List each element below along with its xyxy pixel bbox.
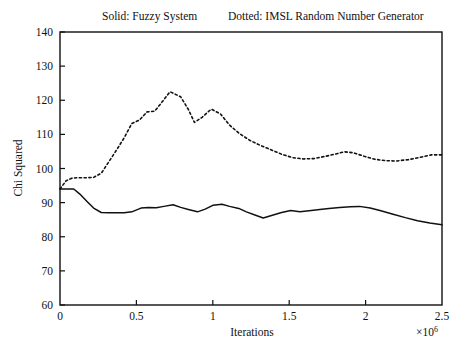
x-tick-label: 1.5 — [282, 310, 297, 322]
chart-title-solid-legend: Solid: Fuzzy System — [102, 10, 197, 23]
y-tick-label: 120 — [36, 94, 54, 106]
x-axis-multiplier-exponent: 6 — [434, 325, 438, 334]
chart-svg: Solid: Fuzzy System Dotted: IMSL Random … — [0, 0, 470, 355]
chart-title-dotted-legend: Dotted: IMSL Random Number Generator — [228, 10, 424, 22]
y-tick-label: 100 — [36, 163, 54, 175]
y-axis-tick-marks — [60, 32, 65, 305]
x-axis-tick-marks — [136, 300, 365, 305]
plot-frame — [60, 32, 442, 305]
x-tick-label: 1 — [210, 310, 216, 322]
y-tick-label: 130 — [36, 60, 54, 72]
y-axis-label: Chi Squared — [12, 139, 25, 196]
y-tick-label: 90 — [42, 197, 54, 209]
series-line-fuzzy-system — [60, 189, 442, 225]
y-axis-tick-labels: 60708090100110120130140 — [36, 26, 54, 311]
y-tick-label: 140 — [36, 26, 54, 38]
x-tick-label: 0 — [57, 310, 63, 322]
y-tick-label: 70 — [42, 265, 54, 277]
series-line-imsl-random-number-generator — [60, 92, 442, 189]
x-axis-multiplier: ×106 — [416, 325, 438, 338]
x-tick-label: 0.5 — [129, 310, 144, 322]
x-tick-label: 2 — [363, 310, 369, 322]
chart-figure: Solid: Fuzzy System Dotted: IMSL Random … — [0, 0, 470, 355]
y-tick-label: 80 — [42, 231, 54, 243]
y-tick-label: 110 — [36, 128, 53, 140]
x-axis-multiplier-base: ×10 — [416, 326, 434, 338]
x-tick-label: 2.5 — [435, 310, 450, 322]
x-axis-label: Iterations — [230, 326, 274, 338]
y-tick-label: 60 — [42, 299, 54, 311]
x-axis-tick-labels: 00.511.522.5 — [57, 310, 449, 322]
